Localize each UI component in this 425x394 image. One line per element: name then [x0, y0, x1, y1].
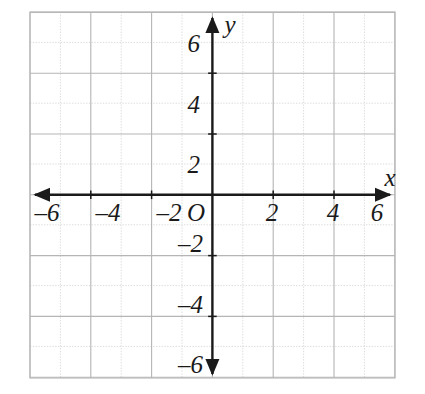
x-tick-label-4: 4	[327, 199, 340, 226]
y-tick-label-2: 2	[188, 151, 201, 178]
x-tick-label-neg4: –4	[95, 199, 121, 226]
x-axis-label: x	[383, 164, 395, 191]
y-tick-label-neg4: –4	[177, 291, 203, 318]
x-tick-label-6: 6	[371, 199, 384, 226]
coordinate-grid-svg: –6 –4 –2 2 4 6 6 4 2 –2 –4 –6 O y x	[0, 0, 425, 394]
origin-label: O	[187, 199, 205, 226]
x-tick-label-2: 2	[266, 199, 279, 226]
y-axis-label: y	[221, 11, 236, 38]
y-tick-label-neg6: –6	[177, 351, 204, 378]
coordinate-plane-figure: –6 –4 –2 2 4 6 6 4 2 –2 –4 –6 O y x	[0, 0, 425, 394]
x-tick-label-neg2: –2	[156, 199, 182, 226]
y-tick-label-6: 6	[188, 30, 201, 57]
x-tick-label-neg6: –6	[34, 199, 61, 226]
y-tick-label-neg2: –2	[177, 230, 203, 257]
y-tick-label-4: 4	[188, 91, 201, 118]
